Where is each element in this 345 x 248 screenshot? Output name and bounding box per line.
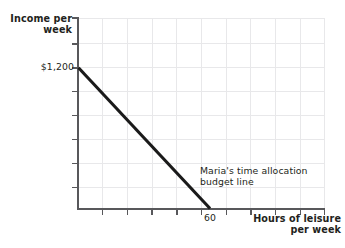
y-axis-tick-label-1200: $1,200 [10,62,74,73]
chart-canvas [0,0,345,248]
budget-line-chart-figure: Income per week $1,200 60 Hours of leisu… [0,0,345,248]
x-axis-title: Hours of leisure per week [228,213,341,236]
budget-line-annotation: Maria's time allocation budget line [200,166,332,188]
y-axis-ticks [72,18,79,187]
x-axis-tick-label-60: 60 [194,213,226,224]
y-axis-title: Income per week [4,13,72,36]
